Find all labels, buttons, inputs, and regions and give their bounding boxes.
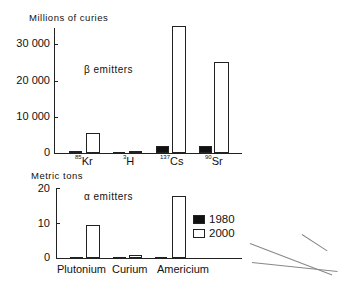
bottom-ytick-10: 10 xyxy=(2,217,50,229)
top-ytick-10000: 10 000 xyxy=(2,110,50,122)
top-tick-mark xyxy=(54,117,58,118)
bottom-tick-mark xyxy=(56,188,60,189)
bottom-ytick-20: 20 xyxy=(2,182,50,194)
bottom-tick-mark xyxy=(56,223,60,224)
bar-cs-2000 xyxy=(172,26,186,153)
top-ytick-30000: 30 000 xyxy=(2,37,50,49)
top-ytick-20000: 20 000 xyxy=(2,74,50,86)
bar-plutonium-1980 xyxy=(70,257,83,259)
bar-cs-1980 xyxy=(156,146,169,153)
cat-h: 3H xyxy=(123,155,134,167)
cat-plutonium: Plutonium xyxy=(57,263,106,275)
decorative-stroke xyxy=(250,243,333,275)
bottom-x-axis xyxy=(56,258,242,259)
top-tick-mark xyxy=(54,44,58,45)
cat-cs: 137Cs xyxy=(160,155,183,167)
legend-label-1980: 1980 xyxy=(209,213,235,225)
top-ytick-0: 0 xyxy=(2,146,50,158)
bar-kr-1980 xyxy=(69,151,82,153)
cat-sr: 90Sr xyxy=(205,155,223,167)
legend-label-2000: 2000 xyxy=(209,227,235,239)
decorative-stroke xyxy=(302,234,328,251)
bottom-annotation: α emitters xyxy=(84,191,133,202)
bottom-y-axis-label: Metric tons xyxy=(31,170,83,181)
cat-americium: Americium xyxy=(157,263,209,275)
legend-swatch-2000 xyxy=(193,229,205,238)
bar-h-2000 xyxy=(129,151,142,153)
top-tick-mark xyxy=(54,81,58,82)
legend-swatch-1980 xyxy=(193,215,205,224)
bar-sr-2000 xyxy=(214,62,229,153)
decorative-stroke xyxy=(252,262,338,272)
bottom-ytick-0: 0 xyxy=(2,251,50,263)
bar-plutonium-2000 xyxy=(86,225,100,258)
top-annotation: β emitters xyxy=(84,64,133,75)
bar-sr-1980 xyxy=(199,146,212,153)
top-y-axis-label: Millions of curies xyxy=(29,12,108,23)
bar-curium-1980 xyxy=(113,257,126,259)
cat-kr: 85Kr xyxy=(75,155,93,167)
top-x-axis xyxy=(54,153,242,154)
bar-americium-1980 xyxy=(155,257,167,259)
bar-americium-2000 xyxy=(172,196,186,258)
cat-curium: Curium xyxy=(112,263,147,275)
top-y-axis xyxy=(54,28,55,153)
bar-curium-2000 xyxy=(129,255,142,258)
bar-kr-2000 xyxy=(86,133,100,153)
